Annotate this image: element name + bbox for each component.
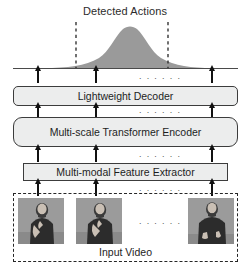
arrow-decoder-out-2 — [95, 70, 97, 83]
arrow-extractor-encoder-3 — [211, 149, 213, 162]
block-multimodal-feature-extractor[interactable]: Multi-modal Feature Extractor — [23, 163, 228, 181]
video-frame-2[interactable] — [76, 198, 122, 244]
input-video-label: Input Video — [13, 246, 238, 258]
arrow-decoder-out-1 — [37, 70, 39, 83]
detected-actions-plot — [13, 20, 238, 70]
video-frame-1[interactable] — [18, 198, 64, 244]
block-lightweight-decoder[interactable]: Lightweight Decoder — [13, 86, 238, 106]
action-score-curve — [43, 26, 213, 68]
block-label: Multi-modal Feature Extractor — [56, 166, 194, 178]
ellipsis-extractor-encoder: · · · · · · — [139, 152, 182, 161]
video-frame-3[interactable] — [188, 198, 234, 244]
arrow-decoder-out-3 — [211, 70, 213, 83]
block-label: Lightweight Decoder — [78, 90, 174, 102]
plot-baseline — [13, 68, 238, 69]
ellipsis-video-frames: · · · · · · — [139, 219, 182, 228]
ellipsis-encoder-decoder: · · · · · · — [139, 108, 182, 117]
diagram-canvas: Detected Actions · · · · · · Lightweight… — [0, 0, 250, 274]
block-multiscale-transformer-encoder[interactable]: Multi-scale Transformer Encoder — [13, 117, 238, 147]
arrow-extractor-encoder-2 — [95, 149, 97, 162]
block-label: Multi-scale Transformer Encoder — [50, 126, 202, 138]
arrow-encoder-decoder-3 — [211, 107, 213, 117]
page-title: Detected Actions — [0, 5, 250, 17]
arrow-encoder-decoder-1 — [37, 107, 39, 117]
ellipsis-decoder-out: · · · · · · — [139, 74, 182, 83]
arrow-extractor-encoder-1 — [37, 149, 39, 162]
arrow-encoder-decoder-2 — [95, 107, 97, 117]
